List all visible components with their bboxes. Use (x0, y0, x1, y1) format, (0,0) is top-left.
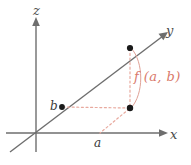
x-axis-arrowhead (159, 129, 168, 136)
point-label-b: b (50, 100, 58, 112)
y-axis-label: y (166, 24, 173, 37)
y-axis (10, 32, 168, 152)
point-dot-b (59, 104, 65, 110)
z-axis-label: z (33, 4, 40, 17)
y-axis-line (10, 36, 163, 152)
x-axis-label: x (170, 128, 177, 141)
guide-line-base-to-a (100, 109, 129, 133)
point-label-a: a (94, 137, 101, 149)
function-value-label: f (a, b) (134, 70, 181, 83)
point-dot-base (127, 105, 133, 111)
x-axis (6, 129, 168, 136)
point-dot-surface (127, 45, 133, 51)
z-axis-arrowhead (32, 17, 40, 26)
coordinate-diagram: z y x b a f (a, b) (0, 0, 191, 165)
guide-line-b-to-base (63, 107, 129, 108)
